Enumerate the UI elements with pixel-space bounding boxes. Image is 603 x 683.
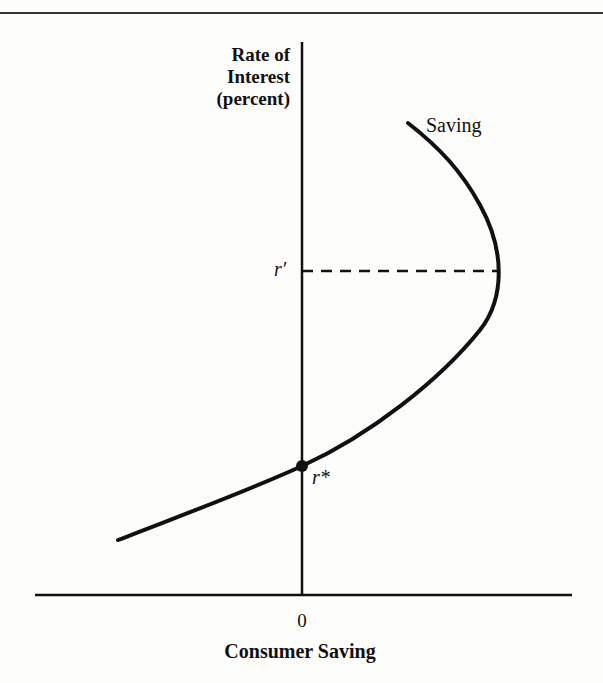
r-prime-label: r′ bbox=[274, 258, 286, 281]
saving-curve-label: Saving bbox=[426, 114, 482, 137]
r-star-point bbox=[296, 460, 308, 472]
x-axis-label: Consumer Saving bbox=[150, 640, 450, 663]
x-zero-tick-label: 0 bbox=[290, 610, 314, 632]
saving-curve bbox=[118, 123, 499, 540]
saving-curve-plot bbox=[0, 0, 603, 683]
r-star-label: r* bbox=[312, 466, 330, 489]
